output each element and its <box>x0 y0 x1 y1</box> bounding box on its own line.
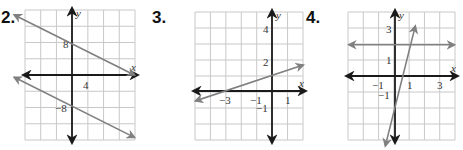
tick-label: −1 <box>378 89 390 101</box>
tick-label: 1 <box>407 79 413 91</box>
tick-label: 3 <box>437 79 443 91</box>
tick-label: 1 <box>386 54 392 66</box>
coordinate-graph: xy31−113−1 <box>0 0 463 150</box>
tick-label: 3 <box>386 23 392 35</box>
x-axis-label: x <box>450 62 456 74</box>
y-axis-label: y <box>398 9 404 21</box>
